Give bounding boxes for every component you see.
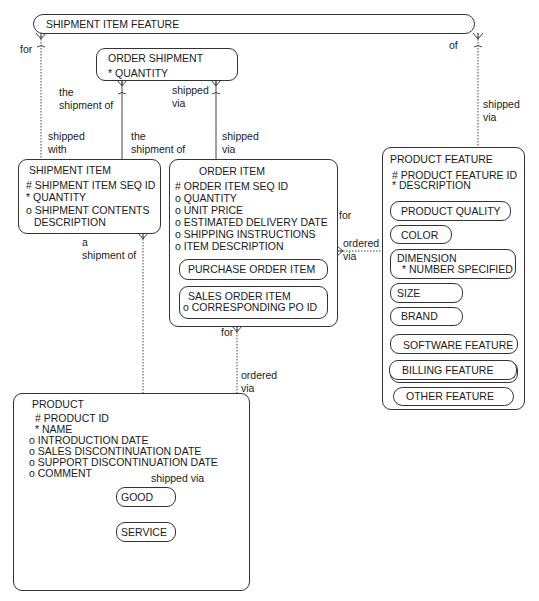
label-line: ordered <box>241 369 277 381</box>
subtype-software-feature[interactable]: SOFTWARE FEATURE <box>390 334 518 354</box>
subtype-title: OTHER FEATURE <box>406 390 494 402</box>
attribute: DESCRIPTION <box>34 216 106 228</box>
attribute: o SHIPMENT CONTENTS <box>26 204 150 216</box>
label-line: shipment of <box>82 249 136 261</box>
entity-order-item[interactable]: ORDER ITEM # ORDER ITEM SEQ ID o QUANTIT… <box>169 159 338 327</box>
label-line: the <box>59 86 74 98</box>
subtype-product-quality[interactable]: PRODUCT QUALITY <box>390 201 511 221</box>
subtype-brand[interactable]: BRAND <box>390 307 463 326</box>
rel-label-ordered-via: ordered via <box>343 237 379 262</box>
entity-title: ORDER ITEM <box>199 165 265 177</box>
label-line: via <box>172 97 185 109</box>
rel-label-for: for <box>339 209 351 222</box>
subtype-billing-feature[interactable]: BILLING FEATURE <box>389 360 517 380</box>
attribute: o COMMENT <box>29 467 92 479</box>
entity-title: PRODUCT <box>32 398 84 410</box>
rel-label-shipped-via: shipped via <box>222 130 259 155</box>
subtype-service[interactable]: SERVICE <box>116 522 176 542</box>
label-line: the <box>131 130 146 142</box>
attribute: o UNIT PRICE <box>175 204 243 216</box>
attribute: o CORRESPONDING PO ID <box>183 301 317 313</box>
entity-product[interactable]: PRODUCT # PRODUCT ID * NAME o INTRODUCTI… <box>13 393 250 591</box>
label-line: via <box>343 250 356 262</box>
entity-shipment-item-feature[interactable]: SHIPMENT ITEM FEATURE <box>33 14 475 34</box>
subtype-title: BRAND <box>401 310 438 322</box>
erd-diagram: SHIPMENT ITEM FEATURE ORDER SHIPMENT * Q… <box>0 0 539 601</box>
subtype-other-feature[interactable]: OTHER FEATURE <box>393 387 514 406</box>
rel-label-the-shipment-of: the shipment of <box>59 86 113 111</box>
subtype-good[interactable]: GOOD <box>116 487 176 507</box>
label-line: via <box>222 143 235 155</box>
attribute: o ITEM DESCRIPTION <box>175 240 284 252</box>
attribute: * QUANTITY <box>108 67 168 79</box>
label-line: shipped <box>48 130 85 142</box>
subtype-sales-order-item[interactable]: SALES ORDER ITEM o CORRESPONDING PO ID <box>179 286 328 319</box>
attribute: # SHIPMENT ITEM SEQ ID <box>26 179 155 191</box>
subtype-title: PURCHASE ORDER ITEM <box>188 263 315 275</box>
label-line: a <box>82 236 88 248</box>
subtype-title: SIZE <box>397 287 420 299</box>
rel-label-of: of <box>449 39 458 52</box>
entity-order-shipment[interactable]: ORDER SHIPMENT * QUANTITY <box>96 48 238 81</box>
label-line: via <box>241 382 254 394</box>
rel-label-shipped-via: shipped via <box>483 98 520 123</box>
rel-label-for: for <box>20 43 32 56</box>
label-line: shipped <box>222 130 259 142</box>
rel-label-shipped-via: shipped via <box>151 472 204 485</box>
label-line: shipment of <box>59 99 113 111</box>
subtype-title: GOOD <box>121 491 153 503</box>
entity-title: PRODUCT FEATURE <box>390 153 493 165</box>
rel-label-shipped-via: shipped via <box>172 84 209 109</box>
entity-title: ORDER SHIPMENT <box>108 52 203 64</box>
label-line: shipment of <box>131 143 185 155</box>
rel-label-the-shipment-of: the shipment of <box>131 130 185 155</box>
entity-title: SHIPMENT ITEM <box>29 164 111 176</box>
label-line: shipped <box>483 98 520 110</box>
subtype-title: BILLING FEATURE <box>402 364 493 376</box>
attribute: * DESCRIPTION <box>392 179 471 191</box>
subtype-title: SERVICE <box>121 526 167 538</box>
label-line: shipped <box>172 84 209 96</box>
subtype-title: PRODUCT QUALITY <box>401 205 501 217</box>
subtype-title: COLOR <box>401 229 438 241</box>
attribute: # ORDER ITEM SEQ ID <box>175 180 288 192</box>
label-line: via <box>483 111 496 123</box>
rel-label-for: for <box>221 326 233 339</box>
rel-label-ordered-via: ordered via <box>241 369 277 394</box>
attribute: o QUANTITY <box>175 192 237 204</box>
label-line: ordered <box>343 237 379 249</box>
rel-label-a-shipment-of: a shipment of <box>82 236 136 261</box>
attribute: o SHIPPING INSTRUCTIONS <box>175 228 316 240</box>
subtype-title: SOFTWARE FEATURE <box>403 339 513 351</box>
entity-title: SHIPMENT ITEM FEATURE <box>46 18 179 30</box>
subtype-size[interactable]: SIZE <box>390 283 463 303</box>
subtype-purchase-order-item[interactable]: PURCHASE ORDER ITEM <box>179 259 328 280</box>
label-line: with <box>48 143 67 155</box>
attribute: * QUANTITY <box>26 191 86 203</box>
entity-shipment-item[interactable]: SHIPMENT ITEM # SHIPMENT ITEM SEQ ID * Q… <box>18 159 161 234</box>
attribute: o ESTIMATED DELIVERY DATE <box>175 216 328 228</box>
attribute: * NUMBER SPECIFIED <box>402 263 513 275</box>
subtype-dimension[interactable]: DIMENSION * NUMBER SPECIFIED <box>390 249 516 279</box>
subtype-color[interactable]: COLOR <box>390 225 452 244</box>
rel-label-shipped-with: shipped with <box>48 130 85 155</box>
